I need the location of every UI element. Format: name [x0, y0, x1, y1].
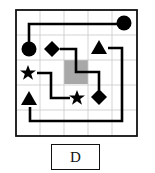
puzzle-grid	[0, 0, 155, 142]
circle-icon	[22, 42, 37, 57]
circle-icon	[117, 16, 132, 31]
option-label-box: D	[51, 144, 100, 170]
option-label: D	[70, 149, 81, 166]
